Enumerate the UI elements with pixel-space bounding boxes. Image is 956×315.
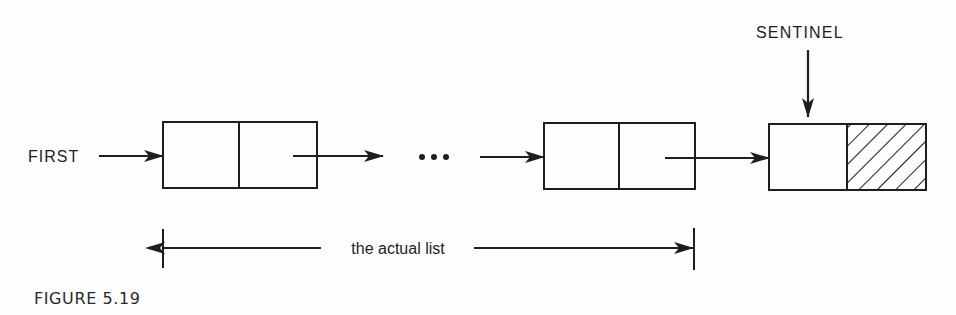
figure-caption: FIGURE 5.19 bbox=[34, 289, 141, 308]
first-label: FIRST bbox=[28, 148, 79, 165]
hatched-next-field bbox=[847, 124, 926, 190]
actual-list-label: the actual list bbox=[351, 240, 445, 257]
figure-5-19: FIRST SENTINEL the actual list FIGURE 5.… bbox=[0, 0, 956, 315]
sentinel-node bbox=[769, 124, 926, 190]
sentinel-label: SENTINEL bbox=[756, 24, 844, 41]
ellipsis-dots bbox=[419, 154, 449, 160]
list-node-n bbox=[544, 123, 695, 189]
